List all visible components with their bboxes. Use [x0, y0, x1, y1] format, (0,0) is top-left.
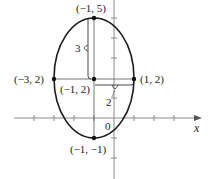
point-bottom — [92, 136, 96, 140]
label-left-point: (−3, 2) — [14, 73, 44, 86]
label-vertical-distance: 3 — [75, 42, 81, 54]
point-left — [52, 77, 56, 81]
label-right-point: (1, 2) — [140, 73, 164, 86]
label-center-point: (−1, 2) — [60, 83, 90, 96]
label-bottom-point: (−1, −1) — [70, 143, 107, 156]
label-origin: 0 — [105, 120, 111, 132]
label-horizontal-distance: 2 — [106, 96, 112, 108]
point-center — [92, 77, 96, 81]
point-right — [132, 77, 136, 81]
label-top-point: (−1, 5) — [76, 2, 106, 15]
label-x-axis: x — [193, 121, 200, 135]
point-top — [92, 16, 96, 20]
ellipse-figure: (−1, 5) (−1, −1) (−3, 2) (1, 2) (−1, 2) … — [0, 0, 208, 179]
